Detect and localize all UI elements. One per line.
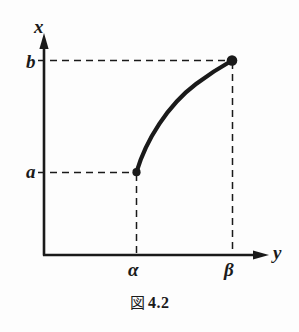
horizontal-axis-arrowhead — [253, 250, 269, 259]
plot-canvas — [0, 0, 299, 332]
curve-path — [137, 61, 233, 173]
vertical-axis-label: x — [34, 17, 44, 36]
tick-label-alpha: α — [128, 260, 139, 279]
figure-container: x y b a α β 図4.2 — [0, 0, 299, 332]
figure-caption-number: 4.2 — [148, 294, 170, 311]
figure-caption-prefix: 図 — [130, 294, 146, 312]
tick-label-b: b — [26, 52, 36, 71]
curve-endpoint-lower-marker — [132, 168, 140, 176]
curve-endpoint-upper-marker — [227, 55, 238, 66]
tick-label-a: a — [26, 162, 36, 181]
tick-label-beta: β — [224, 260, 234, 279]
figure-caption: 図4.2 — [0, 291, 299, 312]
horizontal-axis-label: y — [273, 243, 281, 262]
